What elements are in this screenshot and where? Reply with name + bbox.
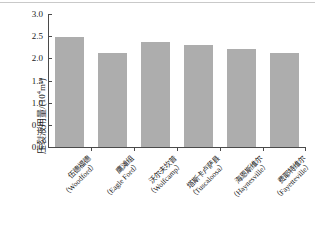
bar (227, 49, 255, 147)
y-tick: 0.5 (48, 125, 52, 126)
x-tick-mark (134, 147, 135, 151)
x-tick-mark (305, 147, 306, 151)
y-tick-mark (48, 81, 52, 82)
y-tick: 1.0 (48, 103, 52, 104)
bar (141, 42, 169, 148)
bar (270, 53, 298, 147)
x-tick-mark (220, 147, 221, 151)
x-tick-mark (177, 147, 178, 151)
bar (98, 53, 126, 147)
y-tick-mark (48, 103, 52, 104)
plot-area: 0.00.51.01.52.02.53.0 (48, 14, 306, 148)
bar-chart-figure: 压裂液用量/(104m³) 0.00.51.01.52.02.53.0 伍德福德… (0, 0, 315, 231)
y-tick: 3.0 (48, 14, 52, 15)
y-tick-mark (48, 147, 52, 148)
y-tick-label: 2.0 (32, 54, 43, 63)
y-tick-label: 1.5 (32, 76, 43, 85)
y-tick-label: 1.0 (32, 98, 43, 107)
y-tick: 2.5 (48, 36, 52, 37)
y-tick-mark (48, 125, 52, 126)
y-tick-label: 0.0 (32, 143, 43, 152)
y-tick-mark (48, 58, 52, 59)
y-tick: 0.0 (48, 147, 52, 148)
y-tick-label: 0.5 (32, 120, 43, 129)
y-tick: 2.0 (48, 58, 52, 59)
y-tick: 1.5 (48, 81, 52, 82)
top-rule-divider (0, 2, 315, 3)
bar (184, 45, 212, 147)
y-tick-mark (48, 14, 52, 15)
y-tick-mark (48, 36, 52, 37)
y-tick-label: 3.0 (32, 10, 43, 19)
x-tick-mark (263, 147, 264, 151)
y-tick-label: 2.5 (32, 32, 43, 41)
bar (55, 37, 83, 147)
x-tick-mark (91, 147, 92, 151)
